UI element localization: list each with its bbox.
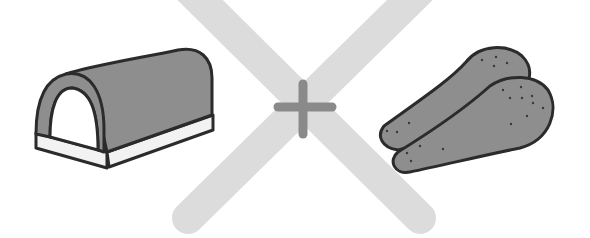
- drumsticks-icon: [380, 48, 552, 173]
- loaf-icon: [36, 49, 213, 168]
- illustration-canvas: loaf + drumsticks: [0, 0, 590, 238]
